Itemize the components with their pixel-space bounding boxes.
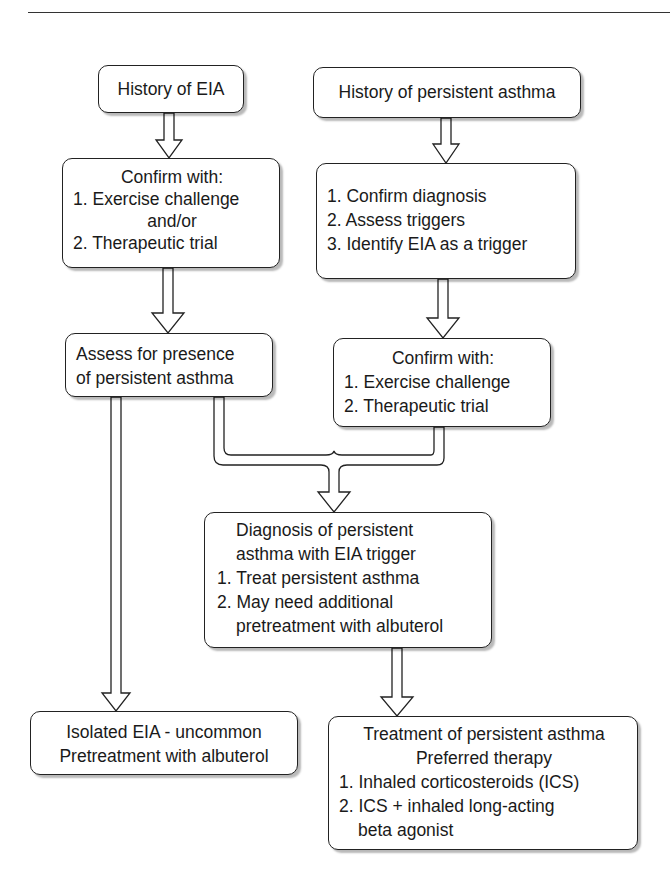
node-text: pretreatment with albuterol bbox=[217, 614, 483, 638]
node-history-persistent-asthma: History of persistent asthma bbox=[313, 67, 581, 118]
node-text: beta agonist bbox=[339, 818, 629, 842]
arrow-steps-to-confirm-right bbox=[427, 279, 459, 338]
node-text: 2. Assess triggers bbox=[327, 208, 567, 232]
node-assess-presence: Assess for presence of persistent asthma bbox=[65, 333, 273, 397]
node-text: Diagnosis of persistent bbox=[217, 518, 483, 542]
node-diagnosis: Diagnosis of persistent asthma with EIA … bbox=[204, 512, 492, 648]
node-text: and/or bbox=[73, 210, 271, 232]
node-text: asthma with EIA trigger bbox=[217, 542, 483, 566]
arrow-assess-to-isolated bbox=[102, 397, 130, 711]
node-text: 3. Identify EIA as a trigger bbox=[327, 232, 567, 256]
node-text: 1. Exercise challenge bbox=[344, 370, 542, 394]
node-text: Preferred therapy bbox=[339, 746, 629, 770]
node-confirm-right: Confirm with: 1. Exercise challenge 2. T… bbox=[333, 338, 551, 427]
node-confirm-left: Confirm with: 1. Exercise challenge and/… bbox=[62, 158, 280, 268]
arrow-confirm-to-assess bbox=[152, 268, 184, 333]
node-text: 1. Exercise challenge bbox=[73, 188, 271, 210]
node-text: 1. Inhaled corticosteroids (ICS) bbox=[339, 770, 629, 794]
node-text: Assess for presence bbox=[76, 342, 264, 366]
node-treatment: Treatment of persistent asthma Preferred… bbox=[328, 716, 638, 850]
node-text: Confirm with: bbox=[344, 346, 542, 370]
node-text: 2. ICS + inhaled long-acting bbox=[339, 794, 629, 818]
node-assess-steps: 1. Confirm diagnosis 2. Assess triggers … bbox=[316, 163, 576, 279]
node-text: Confirm with: bbox=[73, 166, 271, 188]
node-text: Treatment of persistent asthma bbox=[339, 722, 629, 746]
arrow-history-persistent-to-steps bbox=[433, 118, 459, 163]
node-text: 2. Therapeutic trial bbox=[344, 394, 542, 418]
node-text: 1. Confirm diagnosis bbox=[327, 184, 567, 208]
node-text: History of EIA bbox=[107, 78, 235, 100]
arrow-diagnosis-to-treatment bbox=[381, 648, 413, 716]
node-text: of persistent asthma bbox=[76, 366, 264, 390]
node-text: History of persistent asthma bbox=[322, 81, 572, 103]
node-text: 1. Treat persistent asthma bbox=[217, 566, 483, 590]
node-history-eia: History of EIA bbox=[98, 65, 244, 113]
node-text: 2. May need additional bbox=[217, 590, 483, 614]
node-text: 2. Therapeutic trial bbox=[73, 232, 271, 254]
arrow-history-eia-to-confirm bbox=[156, 113, 182, 158]
node-isolated-eia: Isolated EIA - uncommon Pretreatment wit… bbox=[30, 711, 298, 775]
node-text: Pretreatment with albuterol bbox=[39, 744, 289, 768]
node-text: Isolated EIA - uncommon bbox=[39, 720, 289, 744]
